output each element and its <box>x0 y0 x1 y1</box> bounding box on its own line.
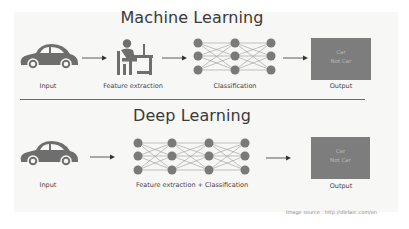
output-car-label: Car <box>311 147 370 156</box>
arrow-icon <box>266 155 292 161</box>
dl-feature-extraction-classification-label: Feature extraction + Classification <box>128 181 256 189</box>
dl-input-label: Input <box>26 181 70 189</box>
dl-output-label: Output <box>318 182 364 190</box>
neural-network-icon <box>190 37 280 77</box>
arrow-icon <box>162 55 188 61</box>
ml-feature-extraction-label: Feature extraction <box>98 82 168 90</box>
image-source-caption: Image source : http://dlelarc.com/en <box>286 209 377 215</box>
arrow-icon <box>90 154 116 160</box>
deep-neural-network-icon <box>131 137 253 177</box>
ml-input-label: Input <box>26 82 70 90</box>
ml-classification-label: Classification <box>200 82 270 90</box>
arrow-icon <box>82 55 108 61</box>
car-icon <box>18 42 80 70</box>
dl-title: Deep Learning <box>92 106 292 125</box>
ml-title: Machine Learning <box>92 8 292 27</box>
output-car-label: Car <box>311 48 371 57</box>
output-not-car-label: Not Car <box>311 57 371 66</box>
car-icon <box>18 139 80 167</box>
person-at-computer-icon <box>113 39 155 75</box>
ml-output-label: Output <box>318 82 364 90</box>
section-divider <box>20 99 365 100</box>
arrow-icon <box>283 55 309 61</box>
output-not-car-label: Not Car <box>311 156 370 165</box>
ml-output-box: Car Not Car <box>311 38 371 80</box>
dl-output-box: Car Not Car <box>311 137 370 179</box>
